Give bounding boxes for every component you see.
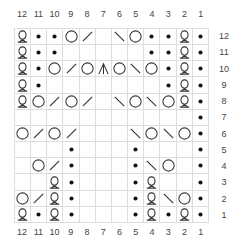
purl-cell [193, 207, 209, 223]
column-label: 4 [144, 227, 160, 237]
knit-cell [96, 45, 112, 61]
row-label: 1 [212, 207, 236, 223]
row-label: 7 [212, 109, 236, 125]
k2tog-cell [80, 94, 96, 110]
column-label: 2 [177, 9, 193, 19]
twisted-knit-icon [177, 29, 192, 44]
purl-cell [31, 29, 47, 45]
knit-cell [112, 142, 128, 158]
knit-cell [80, 207, 96, 223]
knit-cell [112, 45, 128, 61]
knit-cell [80, 191, 96, 207]
column-label: 8 [79, 227, 95, 237]
yarn-over-cell [63, 29, 79, 45]
k2tog-cell [47, 158, 63, 174]
purl-icon [144, 29, 159, 44]
twisted-knit-icon [144, 175, 159, 190]
k2tog-icon [31, 126, 46, 141]
purl-icon [47, 29, 62, 44]
yarn-over-cell [80, 61, 96, 77]
k2tog-icon [80, 29, 95, 44]
yarn-over-cell [47, 126, 63, 142]
purl-cell [160, 45, 176, 61]
purl-icon [193, 207, 208, 222]
yarn-over-cell [112, 61, 128, 77]
purl-cell [63, 207, 79, 223]
yarn-over-icon [15, 126, 30, 141]
twisted-knit-cell [15, 61, 31, 77]
knit-cell [160, 174, 176, 190]
purl-cell [47, 29, 63, 45]
knit-cell [80, 158, 96, 174]
k2tog-cell [31, 191, 47, 207]
purl-icon [193, 45, 208, 60]
twisted-knit-cell [15, 29, 31, 45]
purl-cell [31, 61, 47, 77]
yarn-over-icon [177, 126, 192, 141]
yarn-over-cell [31, 94, 47, 110]
column-label: 12 [14, 227, 30, 237]
purl-icon [128, 142, 143, 157]
purl-icon [128, 175, 143, 190]
purl-icon [31, 78, 46, 93]
purl-icon [193, 126, 208, 141]
knit-cell [112, 174, 128, 190]
yarn-over-icon [80, 61, 95, 76]
k2tog-cell [63, 126, 79, 142]
twisted-knit-icon [47, 207, 62, 222]
yarn-over-icon [161, 94, 176, 109]
knit-cell [128, 77, 144, 93]
yarn-over-icon [15, 191, 30, 206]
yarn-over-cell [177, 126, 193, 142]
yarn-over-cell [31, 158, 47, 174]
column-label: 8 [79, 9, 95, 19]
purl-cell [128, 142, 144, 158]
knit-cell [144, 142, 160, 158]
k2tog-cell [63, 61, 79, 77]
knit-cell [96, 29, 112, 45]
knit-cell [80, 142, 96, 158]
ssk-icon [161, 126, 176, 141]
twisted-knit-icon [15, 45, 30, 60]
purl-cell [193, 126, 209, 142]
ssk-cell [128, 61, 144, 77]
yarn-over-icon [161, 158, 176, 173]
purl-icon [64, 191, 79, 206]
purl-icon [47, 45, 62, 60]
ssk-cell [160, 191, 176, 207]
twisted-knit-icon [15, 29, 30, 44]
knit-cell [47, 77, 63, 93]
double-decrease-cell [96, 61, 112, 77]
knit-cell [15, 174, 31, 190]
purl-cell [160, 61, 176, 77]
yarn-over-icon [64, 94, 79, 109]
purl-cell [144, 45, 160, 61]
row-label: 4 [212, 158, 236, 174]
k2tog-icon [31, 191, 46, 206]
column-label: 6 [112, 9, 128, 19]
k2tog-cell [47, 94, 63, 110]
purl-cell [31, 45, 47, 61]
knit-cell [96, 174, 112, 190]
purl-icon [128, 207, 143, 222]
twisted-knit-cell [144, 191, 160, 207]
yarn-over-icon [128, 29, 143, 44]
purl-cell [47, 45, 63, 61]
column-label: 4 [144, 9, 160, 19]
purl-icon [161, 29, 176, 44]
knit-cell [80, 45, 96, 61]
knit-cell [47, 142, 63, 158]
purl-icon [193, 175, 208, 190]
row-label: 11 [212, 44, 236, 60]
purl-cell [193, 61, 209, 77]
ssk-cell [160, 126, 176, 142]
knit-cell [112, 77, 128, 93]
purl-icon [64, 207, 79, 222]
twisted-knit-icon [144, 191, 159, 206]
purl-cell [63, 158, 79, 174]
twisted-knit-cell [177, 61, 193, 77]
column-label: 10 [47, 227, 63, 237]
row-label: 3 [212, 174, 236, 190]
knit-cell [160, 110, 176, 126]
column-label: 12 [14, 9, 30, 19]
